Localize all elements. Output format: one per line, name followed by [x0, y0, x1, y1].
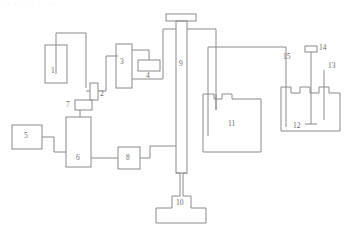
pipe-column-left-shoulder	[163, 29, 176, 33]
label-7: 7	[66, 101, 70, 109]
label-4: 4	[146, 72, 150, 80]
pipe-header-to-15	[245, 47, 286, 87]
label-10: 10	[176, 199, 184, 207]
component-3-body	[116, 44, 132, 88]
pipe-column-right-shoulder	[187, 29, 216, 110]
label-14: 14	[319, 44, 327, 52]
label-6: 6	[76, 154, 80, 162]
component-9-neck-right	[183, 173, 187, 196]
label-3: 3	[120, 58, 124, 66]
pipe-to-vessel-11	[208, 47, 245, 94]
component-9-neck-left	[176, 173, 180, 196]
pipe-1-to-2	[56, 33, 86, 88]
label-5: 5	[24, 132, 28, 140]
label-12: 12	[293, 122, 301, 130]
component-2-body	[90, 83, 98, 100]
label-8: 8	[126, 154, 130, 162]
figure-canvas: ·· · ·· · ·· ··	[0, 0, 350, 230]
process-flow-diagram	[0, 0, 350, 230]
label-15: 15	[283, 53, 291, 61]
pipe-2-to-3	[98, 56, 118, 91]
component-14-cap	[305, 46, 317, 52]
component-9-cap	[166, 14, 196, 21]
component-12-lid	[281, 87, 329, 93]
pipe-8-to-column	[140, 146, 160, 158]
pipe-3-to-4-top	[132, 50, 149, 60]
label-1: 1	[51, 67, 55, 75]
label-2: 2	[100, 90, 104, 98]
component-7-body	[75, 100, 92, 110]
component-11-lid	[203, 94, 232, 99]
pipe-5-to-6	[42, 137, 66, 152]
label-9: 9	[179, 60, 183, 68]
label-11: 11	[228, 120, 235, 128]
component-4-body	[138, 60, 160, 71]
component-9-body	[176, 21, 187, 173]
label-13: 13	[328, 62, 336, 70]
